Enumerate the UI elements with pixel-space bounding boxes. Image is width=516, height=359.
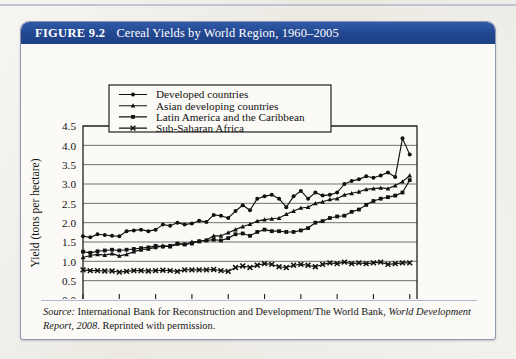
data-point-square <box>292 230 296 234</box>
y-tick-label: 2.0 <box>62 217 76 229</box>
data-point-circle <box>103 233 107 237</box>
data-point-square <box>328 216 332 220</box>
chart-legend: Developed countriesAsian developing coun… <box>109 85 331 134</box>
data-point-circle <box>131 93 135 97</box>
y-tick-label: 1.0 <box>62 256 76 268</box>
data-point-circle <box>197 219 201 223</box>
data-point-square <box>372 199 376 203</box>
figure-title: Cereal Yields by World Region, 1960–2005 <box>116 26 338 41</box>
chart-area: 0.00.51.01.52.02.53.03.54.04.51960196519… <box>21 44 495 299</box>
data-point-square <box>393 194 397 198</box>
y-axis-title: Yield (tons per hectare) <box>29 158 42 267</box>
y-tick-label: 0.0 <box>62 294 76 299</box>
data-point-square <box>234 232 238 236</box>
data-point-circle <box>313 191 317 195</box>
data-point-square <box>96 249 100 253</box>
data-point-circle <box>306 197 310 201</box>
data-point-circle <box>255 197 259 201</box>
data-point-circle <box>277 197 281 201</box>
data-point-circle <box>386 170 390 174</box>
data-point-square <box>103 249 107 253</box>
data-point-circle <box>110 234 114 238</box>
source-note: Source: International Bank for Reconstru… <box>43 305 475 332</box>
data-point-circle <box>241 203 245 207</box>
data-point-square <box>321 219 325 223</box>
data-point-circle <box>183 223 187 227</box>
data-point-circle <box>125 229 129 233</box>
data-point-square <box>379 197 383 201</box>
data-point-square <box>342 214 346 218</box>
data-point-square <box>263 228 267 232</box>
data-point-circle <box>408 153 412 157</box>
y-tick-label: 4.5 <box>62 120 76 132</box>
page-top-rule <box>0 4 516 6</box>
data-point-square <box>335 215 339 219</box>
data-point-square <box>248 234 252 238</box>
data-point-circle <box>233 209 237 213</box>
y-tick-label: 4.0 <box>62 140 76 152</box>
data-point-square <box>117 249 121 253</box>
data-point-circle <box>204 220 208 224</box>
y-tick-label: 3.5 <box>62 159 76 171</box>
data-point-square <box>255 230 259 234</box>
data-point-circle <box>263 194 267 198</box>
data-point-square <box>386 195 390 199</box>
data-point-square <box>197 239 201 243</box>
figure-container: FIGURE 9.2 Cereal Yields by World Region… <box>20 21 496 340</box>
data-point-square <box>88 251 92 255</box>
data-point-square <box>277 229 281 233</box>
series-asian-developing-countries <box>81 173 412 259</box>
source-text-part1: International Bank for Reconstruction an… <box>75 306 389 317</box>
data-point-square <box>364 203 368 207</box>
data-point-circle <box>364 174 368 178</box>
data-point-square <box>175 242 179 246</box>
data-point-square <box>401 191 405 195</box>
data-point-circle <box>96 232 100 236</box>
data-point-circle <box>321 194 325 198</box>
data-point-circle <box>379 173 383 177</box>
data-point-square <box>313 221 317 225</box>
data-point-circle <box>139 228 143 232</box>
data-point-circle <box>371 176 375 180</box>
data-point-circle <box>357 177 361 181</box>
data-point-circle <box>88 235 92 239</box>
data-point-square <box>132 247 136 251</box>
data-point-circle <box>299 189 303 193</box>
data-point-circle <box>81 234 85 238</box>
data-point-circle <box>350 179 354 183</box>
data-point-square <box>161 245 165 249</box>
data-point-circle <box>161 223 165 227</box>
y-tick-label: 3.0 <box>62 178 76 190</box>
data-point-triangle <box>407 173 412 177</box>
data-point-circle <box>270 193 274 197</box>
source-text-part2: . Reprinted with permission. <box>97 320 215 331</box>
data-point-square <box>219 239 223 243</box>
y-tick-label: 0.5 <box>62 275 76 287</box>
data-point-triangle <box>110 251 115 255</box>
data-point-circle <box>168 224 172 228</box>
data-point-square <box>205 239 209 243</box>
data-point-circle <box>154 228 158 232</box>
cereal-yields-line-chart: 0.00.51.01.52.02.53.03.54.04.51960196519… <box>21 44 495 299</box>
data-point-circle <box>248 208 252 212</box>
y-tick-label: 1.5 <box>62 236 76 248</box>
data-point-circle <box>335 191 339 195</box>
data-point-square <box>110 248 114 252</box>
data-point-square <box>212 238 216 242</box>
data-point-circle <box>342 182 346 186</box>
series-sub-saharan-africa <box>81 260 413 275</box>
plot-frame <box>83 126 417 299</box>
source-label: Source: <box>43 306 75 317</box>
data-point-circle <box>292 194 296 198</box>
data-point-square <box>241 232 245 236</box>
data-point-circle <box>328 193 332 197</box>
data-point-square <box>350 210 354 214</box>
data-point-square <box>190 242 194 246</box>
data-point-circle <box>284 205 288 209</box>
data-point-square <box>408 178 412 182</box>
series-line <box>83 262 410 272</box>
data-point-circle <box>393 175 397 179</box>
data-point-square <box>131 115 135 119</box>
data-point-square <box>146 246 150 250</box>
data-point-square <box>306 226 310 230</box>
